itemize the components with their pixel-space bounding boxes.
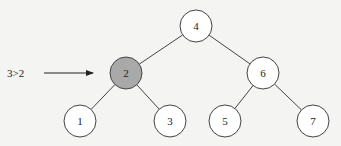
comparison-label: 3>2 — [7, 67, 24, 79]
node-label: 6 — [260, 67, 266, 79]
edge-n4-n6 — [209, 35, 250, 64]
edge-n2-n3 — [137, 85, 159, 109]
comparison-annotation: 3>2 — [7, 67, 93, 79]
tree-node-3: 3 — [154, 105, 186, 137]
node-label: 2 — [123, 67, 129, 79]
tree-diagram: 4261357 3>2 — [0, 0, 341, 146]
edge-n6-n7 — [275, 84, 302, 110]
edge-n4-n2 — [139, 35, 182, 64]
tree-svg: 4261357 3>2 — [0, 0, 341, 146]
tree-node-1: 1 — [64, 105, 96, 137]
node-label: 5 — [222, 115, 228, 127]
tree-node-6: 6 — [247, 57, 279, 89]
edge-n2-n1 — [91, 85, 115, 110]
node-label: 1 — [77, 115, 83, 127]
tree-node-7: 7 — [297, 105, 329, 137]
tree-node-4: 4 — [180, 10, 212, 42]
node-label: 7 — [310, 115, 316, 127]
tree-node-2: 2 — [110, 57, 142, 89]
node-label: 3 — [167, 115, 173, 127]
edge-n6-n5 — [235, 86, 253, 109]
tree-nodes: 4261357 — [64, 10, 329, 137]
tree-node-5: 5 — [209, 105, 241, 137]
node-label: 4 — [193, 20, 199, 32]
